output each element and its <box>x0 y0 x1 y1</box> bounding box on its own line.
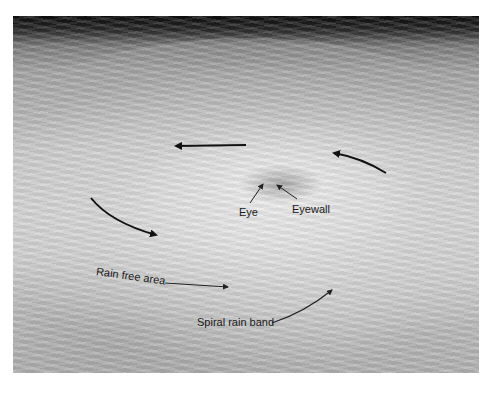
spiral-rain-band-label: Spiral rain band <box>197 317 274 328</box>
eye-label: Eye <box>239 207 258 218</box>
rotation-arrow-top-right <box>334 153 386 173</box>
rotation-arrow-left <box>91 198 156 235</box>
rain-free-pointer <box>165 283 228 287</box>
rotation-arrow-top-left <box>176 145 246 146</box>
eye-pointer <box>250 184 263 203</box>
annotation-overlay <box>0 0 496 393</box>
eyewall-pointer <box>277 185 297 199</box>
rotation-arrow-bottom-right <box>272 290 332 323</box>
eyewall-label: Eyewall <box>292 204 330 215</box>
